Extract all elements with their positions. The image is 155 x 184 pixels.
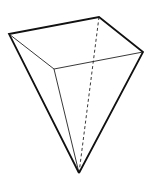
edge-front-apex xyxy=(54,69,79,173)
outline xyxy=(9,17,143,173)
edge-left-front xyxy=(9,34,54,69)
hidden-edge-back-apex xyxy=(79,17,99,173)
edge-front-right xyxy=(54,52,143,69)
pyramid-diagram xyxy=(0,0,155,184)
